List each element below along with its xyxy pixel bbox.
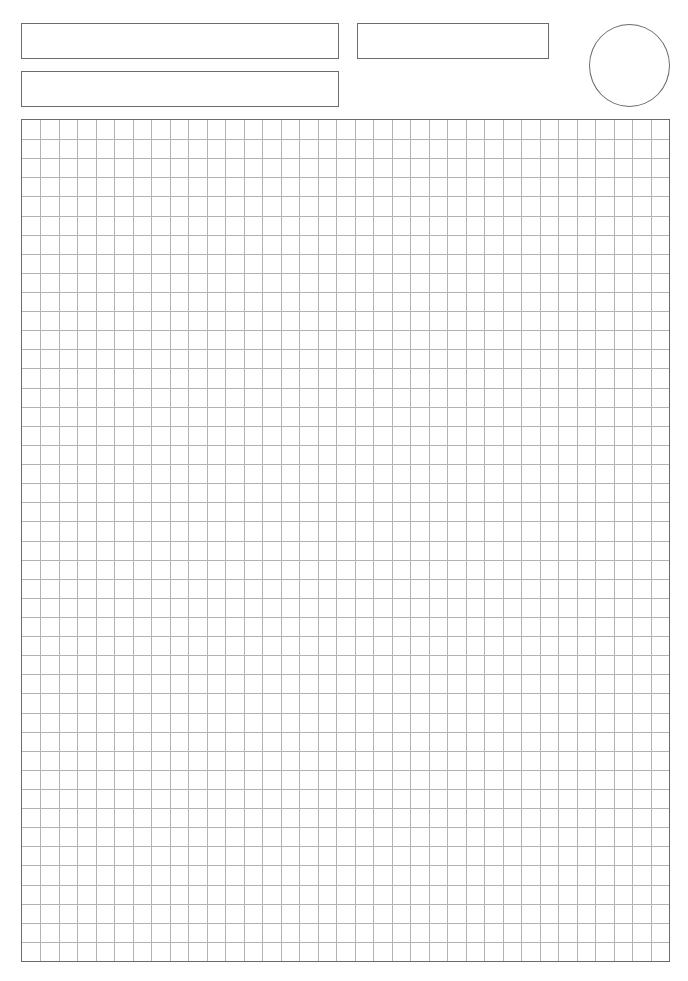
circle-field[interactable] bbox=[589, 24, 670, 107]
grid-lines bbox=[22, 120, 669, 961]
header-field-3[interactable] bbox=[357, 23, 549, 59]
header-field-2[interactable] bbox=[21, 71, 339, 107]
graph-grid[interactable] bbox=[21, 119, 670, 962]
header-field-1[interactable] bbox=[21, 23, 339, 59]
